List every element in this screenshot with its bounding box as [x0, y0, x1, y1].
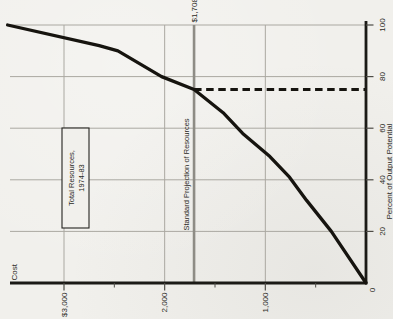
reference-line-value-label: $1,708	[190, 0, 199, 23]
total-resources-box-line1: Total Resources,	[67, 150, 76, 206]
cost-tick-label-2000: 2,000	[160, 292, 169, 313]
percent-tick-label-80: 80	[378, 72, 387, 81]
percent-tick-label-100: 100	[378, 18, 387, 32]
rotated-plot-group: Total Resources,1974-831,0002,000$3,0002…	[8, 0, 393, 317]
cost-axis-title: Cost	[10, 263, 19, 280]
cost-tick-label-1000: 1,000	[261, 292, 270, 313]
total-resources-box-line2: 1974-83	[77, 164, 86, 192]
cost-tick-label-3000: $3,000	[60, 292, 69, 317]
percent-tick-label-20: 20	[378, 226, 387, 235]
cost-output-potential-chart: Total Resources,1974-831,0002,000$3,0002…	[0, 0, 393, 319]
percent-axis-title: Percent of Output Potential	[385, 123, 393, 219]
standard-projection-caption: Standard Projection of Resources	[182, 118, 191, 230]
chart-canvas: Total Resources,1974-831,0002,000$3,0002…	[0, 0, 393, 319]
origin-zero-label: 0	[368, 287, 377, 292]
